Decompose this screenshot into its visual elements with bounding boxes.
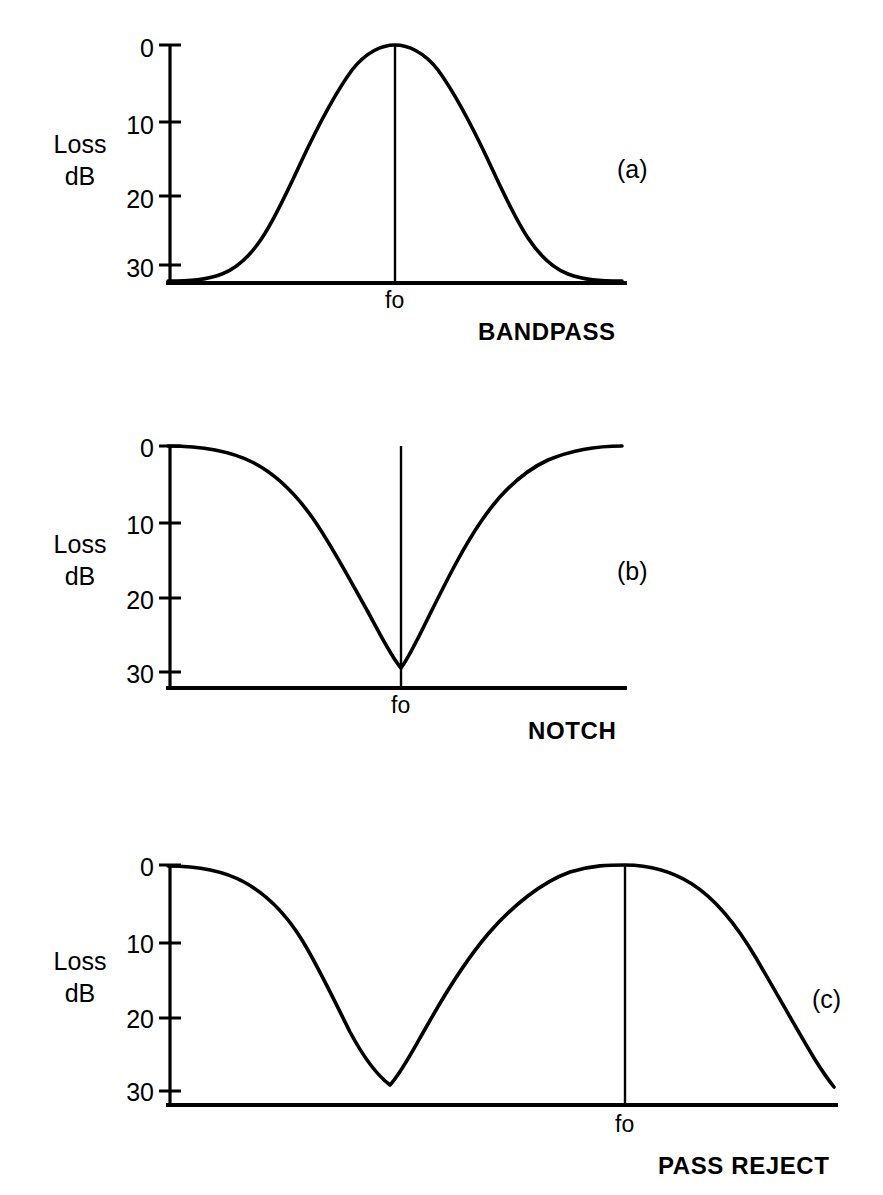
figure-panel-pass-reject: Loss dB 0 10 20 30 fo PASS REJECT (c) (0, 800, 883, 1195)
figure-panel-bandpass: Loss dB 0 10 20 30 fo BANDPASS (a) (0, 0, 883, 390)
fo-label-b: fo (391, 692, 410, 719)
bandpass-response-plot (0, 0, 883, 390)
panel-letter-a: (a) (617, 155, 648, 184)
filter-name-pass-reject: PASS REJECT (658, 1152, 830, 1180)
pass-reject-curve (168, 865, 834, 1087)
pass-reject-response-plot (0, 800, 883, 1195)
filter-name-notch: NOTCH (528, 717, 616, 745)
panel-letter-b: (b) (617, 557, 648, 586)
fo-label-c: fo (615, 1111, 634, 1138)
notch-curve (168, 446, 622, 668)
filter-name-bandpass: BANDPASS (478, 318, 616, 346)
panel-letter-c: (c) (812, 985, 841, 1014)
figure-panel-notch: Loss dB 0 10 20 30 fo NOTCH (b) (0, 400, 883, 785)
fo-label-a: fo (385, 287, 404, 314)
notch-response-plot (0, 400, 883, 785)
